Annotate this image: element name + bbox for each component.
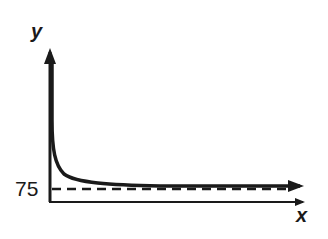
graph (0, 0, 328, 239)
x-axis-label: x (296, 204, 307, 227)
asymptote-value-label: 75 (15, 177, 38, 201)
decay-curve (52, 62, 300, 186)
y-axis-label: y (31, 20, 42, 43)
